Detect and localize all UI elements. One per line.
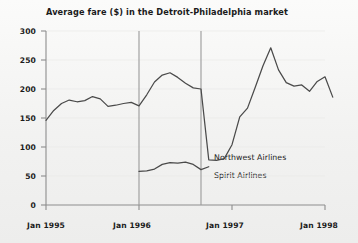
- plot-area: [0, 0, 358, 243]
- gridlines: [46, 31, 325, 176]
- chart-figure: Average fare ($) in the Detroit-Philadel…: [0, 0, 358, 243]
- series-line-spirit-airlines: [139, 162, 209, 171]
- series-line-northwest-airlines: [46, 48, 333, 161]
- x-axis-ticks: [46, 205, 325, 210]
- y-axis-ticks: [41, 31, 46, 205]
